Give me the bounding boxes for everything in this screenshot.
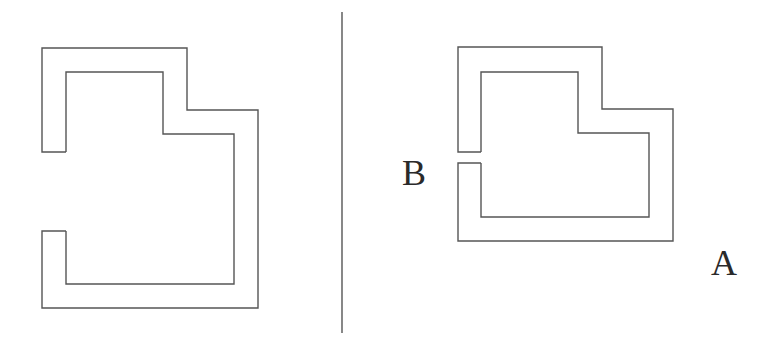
right-channel-shape — [458, 47, 673, 241]
left-shape-inner-wall — [66, 72, 234, 284]
diagram-canvas: B A — [0, 0, 776, 340]
left-shape-outer-wall — [42, 48, 258, 308]
diagram-drawing — [0, 0, 776, 340]
label-b: B — [402, 155, 426, 191]
left-channel-shape — [42, 48, 258, 308]
right-shape-inner-wall — [481, 72, 649, 217]
right-shape-outer-wall — [458, 47, 673, 241]
label-a: A — [711, 245, 737, 281]
